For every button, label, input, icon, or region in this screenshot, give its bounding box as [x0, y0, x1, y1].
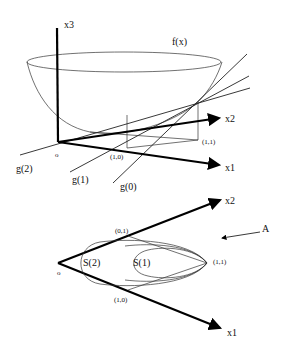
arrow-a-label: A — [262, 223, 270, 234]
arrow-a — [222, 232, 260, 238]
set-label-s1: S(1) — [133, 257, 150, 269]
base-line-a — [127, 140, 198, 148]
tangent-label-g1: g(1) — [72, 174, 89, 186]
point-label-10: (1,0) — [110, 153, 124, 161]
axis-x1 — [58, 142, 219, 165]
axis-x1-label: x1 — [225, 162, 235, 173]
bowl-rim — [27, 52, 221, 72]
tangent-label-g0: g(0) — [120, 181, 137, 193]
axis-x1-bottom-label: x1 — [227, 327, 237, 338]
set-label-s2: S(2) — [83, 257, 100, 269]
axis-x2-label: x2 — [225, 113, 235, 124]
axis-x2-bottom-label: x2 — [225, 195, 235, 206]
point-label-11-bottom: (1,1) — [213, 258, 227, 266]
point-label-01: (0,1) — [115, 227, 129, 235]
function-label: f(x) — [172, 36, 187, 48]
top-figure: x3 x2 x1 f(x) o (1,0) (1,1) g(2) g(1) g(… — [16, 19, 250, 193]
origin-label: o — [55, 151, 59, 159]
diagram-canvas: x3 x2 x1 f(x) o (1,0) (1,1) g(2) g(1) g(… — [0, 0, 282, 355]
origin-label-bottom: o — [57, 269, 61, 277]
tangent-label-g2: g(2) — [16, 163, 33, 175]
point-label-10-bottom: (1,0) — [114, 296, 128, 304]
tangent-line-g2 — [20, 88, 250, 155]
bottom-figure: x2 x1 o (0,1) (1,0) (1,1) S(2) S(1) A — [57, 195, 270, 338]
point-label-11: (1,1) — [202, 138, 216, 146]
axis-x3 — [57, 28, 58, 142]
base-line-b — [90, 132, 198, 140]
axis-x3-label: x3 — [64, 19, 74, 30]
